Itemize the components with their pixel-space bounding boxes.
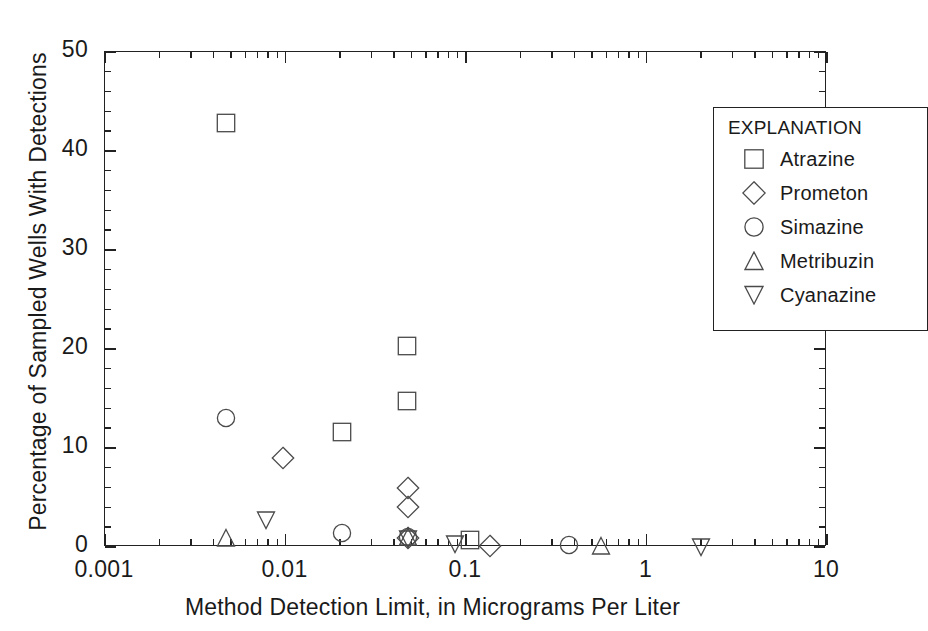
y-axis-title: Percentage of Sampled Wells With Detecti…: [25, 32, 52, 552]
legend-item-metribuzin: Metribuzin: [736, 244, 927, 278]
x-tick-minor-top: [520, 52, 521, 58]
y-tick-right: [819, 487, 825, 488]
x-tick-minor-top: [339, 52, 340, 58]
y-tick: [105, 467, 111, 468]
data-point-atrazine: [217, 114, 236, 133]
data-point-cyanazine: [691, 538, 710, 557]
data-point-atrazine: [397, 392, 416, 411]
square-icon: [736, 149, 772, 169]
y-tick: [105, 210, 111, 211]
x-tick-minor-top: [798, 52, 799, 58]
x-tick-minor-top: [786, 52, 787, 58]
x-tick-minor-top: [245, 52, 246, 58]
triangle-up-icon: [736, 251, 772, 271]
y-tick: [105, 328, 111, 329]
y-tick: [105, 388, 111, 389]
x-tick-minor: [798, 539, 799, 545]
x-tick-minor: [818, 539, 819, 545]
x-tick-minor-top: [638, 52, 639, 58]
y-tick: [105, 71, 111, 72]
x-tick-minor: [772, 539, 773, 545]
data-point-prometon: [272, 446, 295, 469]
y-tick-right: [814, 447, 825, 449]
x-tick-minor: [638, 539, 639, 545]
y-tick: [105, 526, 111, 527]
x-tick: [646, 534, 648, 545]
legend-item-cyanazine: Cyanazine: [736, 278, 927, 312]
plot-area: EXPLANATION AtrazinePrometonSimazineMetr…: [104, 51, 826, 546]
x-tick-top: [826, 52, 828, 63]
x-tick-minor-top: [809, 52, 810, 58]
x-tick-minor: [277, 539, 278, 545]
x-tick-minor: [437, 539, 438, 545]
x-tick-minor-top: [551, 52, 552, 58]
y-tick: [105, 309, 111, 310]
x-tick-minor: [732, 539, 733, 545]
x-tick-minor-top: [267, 52, 268, 58]
legend-box: EXPLANATION AtrazinePrometonSimazineMetr…: [713, 107, 928, 331]
y-tick: [105, 111, 111, 112]
x-tick-minor: [425, 539, 426, 545]
legend-item-label: Simazine: [780, 216, 864, 239]
data-point-atrazine: [332, 423, 351, 442]
y-tick-right: [819, 368, 825, 369]
y-tick: [105, 546, 116, 548]
y-tick-right: [819, 408, 825, 409]
x-tick-minor-top: [772, 52, 773, 58]
x-tick: [826, 534, 828, 545]
x-tick-minor-top: [393, 52, 394, 58]
x-tick-minor: [551, 539, 552, 545]
circle-icon: [736, 217, 772, 237]
diamond-icon: [736, 181, 772, 205]
y-tick: [105, 51, 116, 53]
y-tick: [105, 269, 111, 270]
legend-item-label: Atrazine: [780, 148, 855, 171]
x-tick-top: [646, 52, 648, 63]
data-point-prometon: [397, 496, 420, 519]
x-tick-minor: [267, 539, 268, 545]
x-tick-label: 1: [639, 556, 652, 583]
x-tick-minor: [257, 539, 258, 545]
x-tick-minor: [393, 539, 394, 545]
x-tick-label: 0.1: [449, 556, 482, 583]
x-tick-minor-top: [425, 52, 426, 58]
x-tick-minor-top: [257, 52, 258, 58]
x-tick-minor: [618, 539, 619, 545]
y-tick-right: [819, 526, 825, 527]
x-tick-minor-top: [754, 52, 755, 58]
legend-item-prometon: Prometon: [736, 176, 927, 210]
x-tick-minor: [245, 539, 246, 545]
y-tick: [105, 507, 111, 508]
x-tick-minor: [371, 539, 372, 545]
x-tick: [285, 534, 287, 545]
x-tick-minor: [809, 539, 810, 545]
data-point-cyanazine: [446, 535, 465, 554]
x-tick-minor-top: [732, 52, 733, 58]
data-point-metribuzin: [217, 529, 236, 548]
x-tick-label: 10: [813, 556, 839, 583]
data-point-simazine: [559, 536, 578, 555]
y-tick: [105, 229, 111, 230]
y-tick: [105, 348, 116, 350]
x-tick-minor-top: [818, 52, 819, 58]
data-point-simazine: [332, 524, 351, 543]
x-axis-title: Method Detection Limit, in Micrograms Pe…: [0, 594, 865, 621]
y-tick-right: [819, 71, 825, 72]
y-tick: [105, 408, 111, 409]
triangle-down-icon: [736, 285, 772, 305]
x-tick-minor-top: [700, 52, 701, 58]
legend-item-label: Metribuzin: [780, 250, 874, 273]
data-point-prometon: [478, 535, 501, 558]
x-tick-minor-top: [411, 52, 412, 58]
x-tick-minor-top: [591, 52, 592, 58]
y-tick: [105, 487, 111, 488]
y-tick: [105, 150, 116, 152]
y-tick-right: [814, 546, 825, 548]
x-tick-minor: [520, 539, 521, 545]
legend-entries: AtrazinePrometonSimazineMetribuzinCyanaz…: [714, 142, 927, 312]
y-tick: [105, 190, 111, 191]
data-point-atrazine: [397, 337, 416, 356]
x-tick-top: [104, 52, 106, 63]
y-tick: [105, 249, 116, 251]
